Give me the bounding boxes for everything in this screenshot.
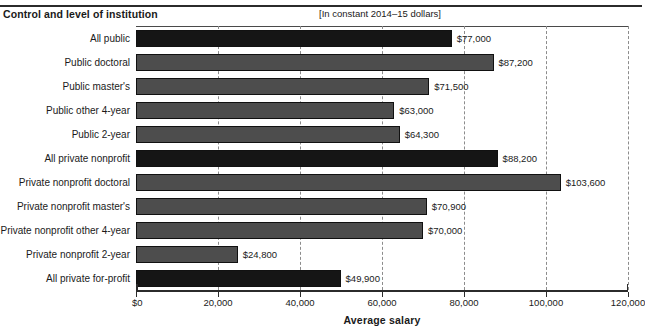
bar-row: Public master's$71,500 xyxy=(0,74,642,98)
category-label: Private nonprofit master's xyxy=(17,202,130,212)
bar xyxy=(136,198,427,215)
axis-end-cap xyxy=(627,284,629,291)
bar-value-label: $71,500 xyxy=(434,82,468,92)
x-tick-label: 80,000 xyxy=(449,297,478,308)
bar-row: Private nonprofit master's$70,900 xyxy=(0,194,642,218)
bar xyxy=(136,222,423,239)
bar-row: Private nonprofit doctoral$103,600 xyxy=(0,170,642,194)
bar-row: Private nonprofit other 4-year$70,000 xyxy=(0,218,642,242)
bar-value-label: $70,000 xyxy=(428,226,462,236)
bar-row: All private nonprofit$88,200 xyxy=(0,146,642,170)
bar-value-label: $70,900 xyxy=(432,202,466,212)
page-title: Control and level of institution xyxy=(3,8,158,20)
x-tick-label: 20,000 xyxy=(203,297,232,308)
bar xyxy=(136,270,341,287)
x-tick-label: 120,000 xyxy=(611,297,645,308)
bar-value-label: $63,000 xyxy=(399,106,433,116)
x-tick-label: 100,000 xyxy=(529,297,563,308)
bar-row: All public$77,000 xyxy=(0,26,642,50)
category-label: Public master's xyxy=(63,82,131,92)
bar xyxy=(136,78,429,95)
category-label: Private nonprofit other 4-year xyxy=(0,226,130,236)
x-tick-label: 60,000 xyxy=(367,297,396,308)
bar xyxy=(136,30,452,47)
axis-end-cap xyxy=(136,284,138,291)
category-label: Private nonprofit 2-year xyxy=(26,250,130,260)
x-tick-label: $0 xyxy=(132,297,143,308)
category-label: All public xyxy=(90,34,130,44)
x-axis-title: Average salary xyxy=(136,314,628,326)
bar-value-label: $103,600 xyxy=(566,178,606,188)
category-label: Public other 4-year xyxy=(46,106,130,116)
category-label: All private for-profit xyxy=(46,274,130,284)
top-divider-rule xyxy=(0,5,642,7)
bar-row: Public doctoral$87,200 xyxy=(0,50,642,74)
units-note: [In constant 2014–15 dollars] xyxy=(319,8,441,19)
category-label: Public doctoral xyxy=(64,58,130,68)
category-label: All private nonprofit xyxy=(44,154,130,164)
bar xyxy=(136,150,498,167)
category-label: Private nonprofit doctoral xyxy=(19,178,130,188)
bar xyxy=(136,126,400,143)
bar-value-label: $87,200 xyxy=(499,58,533,68)
chart-header: Control and level of institution [In con… xyxy=(0,8,642,24)
bar-row: Private nonprofit 2-year$24,800 xyxy=(0,242,642,266)
bar-value-label: $88,200 xyxy=(503,154,537,164)
x-tick-label: 40,000 xyxy=(285,297,314,308)
bar-value-label: $64,300 xyxy=(405,130,439,140)
bar-value-label: $49,900 xyxy=(346,274,380,284)
bar xyxy=(136,174,561,191)
bar-row: All private for-profit$49,900 xyxy=(0,266,642,290)
bar-row: Public 2-year$64,300 xyxy=(0,122,642,146)
bar xyxy=(136,246,238,263)
category-label: Public 2-year xyxy=(72,130,130,140)
bar-value-label: $77,000 xyxy=(457,34,491,44)
bar-row: Public other 4-year$63,000 xyxy=(0,98,642,122)
bar-value-label: $24,800 xyxy=(243,250,277,260)
bar xyxy=(136,54,494,71)
bar xyxy=(136,102,394,119)
